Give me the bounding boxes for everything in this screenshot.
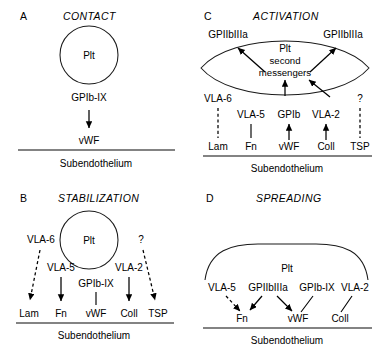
panel-a-ligand-label: vWF	[79, 135, 100, 146]
panel-b-platelet-label: Plt	[83, 235, 95, 246]
panel-b-ligand-tsp-label: TSP	[148, 308, 168, 319]
panel-c-ligand-fn-label: Fn	[245, 141, 257, 152]
figure-container: A CONTACT Plt GPIb-IX vWF Subendothelium…	[0, 0, 375, 352]
panel-d-arrow-gpiibiiia-to-vwf	[277, 296, 292, 311]
panel-c-receptor-unknown-label: ?	[357, 93, 363, 104]
panel-b-ligand-coll-label: Coll	[120, 308, 137, 319]
panel-b-receptor-vla2-label: VLA-2	[115, 262, 143, 273]
panel-c-ligand-lam-label: Lam	[208, 141, 227, 152]
panel-d: D SPREADING Plt VLA-5 GPIIbIIIa GPIb-IX …	[203, 192, 372, 346]
panel-b-arrow-vla6-to-lam	[30, 250, 40, 300]
panel-d-ligand-vwf-label: vWF	[288, 313, 309, 324]
panel-b-title: STABILIZATION	[58, 192, 139, 204]
panel-c-arrow-signal-to-left-integrin	[238, 48, 265, 72]
panel-c-ligand-coll-label: Coll	[317, 141, 334, 152]
panel-a-substrate-label: Subendothelium	[60, 158, 132, 169]
panel-b-arrow-unknown-to-tsp	[143, 250, 155, 300]
panel-a-letter: A	[20, 10, 27, 22]
panel-b-receptor-gpibix-label: GPIb-IX	[78, 278, 114, 289]
panel-c-receptor-vla6-label: VLA-6	[204, 93, 232, 104]
panel-d-ligand-fn-label: Fn	[236, 313, 248, 324]
panel-a-receptor-label: GPIb-IX	[71, 92, 107, 103]
panel-c-platelet-label: Plt	[279, 43, 291, 54]
panel-c-receptor-vla5-label: VLA-5	[237, 109, 265, 120]
panel-b-receptor-unknown-label: ?	[138, 234, 144, 245]
panel-d-ligand-coll-label: Coll	[331, 313, 348, 324]
panel-a-platelet-label: Plt	[83, 50, 95, 61]
panel-d-receptor-gpiibiiia-label: GPIIbIIIa	[248, 282, 288, 293]
panel-d-letter: D	[206, 192, 214, 204]
panel-c-substrate-label: Subendothelium	[251, 163, 323, 174]
panel-a-title: CONTACT	[63, 10, 117, 22]
panel-c-messengers-label: messengers	[259, 67, 311, 78]
panel-b: B STABILIZATION Plt VLA-6 VLA-5 GPIb-IX …	[16, 192, 174, 341]
panel-c-ligand-vwf-label: vWF	[279, 141, 300, 152]
panel-d-receptor-vla5-label: VLA-5	[208, 282, 236, 293]
panel-c-second-label: second	[270, 55, 301, 66]
panel-d-arrow-vla5-to-fn	[226, 296, 240, 311]
diagram-svg: A CONTACT Plt GPIb-IX vWF Subendothelium…	[0, 0, 375, 352]
panel-b-letter: B	[20, 192, 27, 204]
panel-b-ligand-vwf-label: vWF	[86, 308, 107, 319]
panel-c-ligand-tsp-label: TSP	[350, 141, 370, 152]
panel-b-receptor-vla6-label: VLA-6	[27, 234, 55, 245]
panel-b-substrate-label: Subendothelium	[58, 330, 130, 341]
panel-c-arrow-vla2-into-cell	[309, 80, 330, 97]
panel-d-platelet-shape	[205, 244, 368, 280]
panel-b-receptor-vla5-label: VLA-5	[47, 262, 75, 273]
panel-c-arrow-signal-to-right-integrin	[310, 48, 336, 72]
panel-c-receptor-vla2-label: VLA-2	[312, 109, 340, 120]
panel-c-integrin-left-label: GPIIbIIIa	[208, 29, 248, 40]
panel-d-receptor-vla2-label: VLA-2	[341, 282, 369, 293]
panel-c: C ACTIVATION GPIIbIIIa GPIIbIIIa Plt sec…	[201, 10, 372, 174]
panel-d-receptor-gpibix-label: GPIb-IX	[299, 282, 335, 293]
panel-a: A CONTACT Plt GPIb-IX vWF Subendothelium	[18, 10, 175, 169]
panel-c-title: ACTIVATION	[252, 10, 319, 22]
panel-d-title: SPREADING	[256, 192, 321, 204]
panel-d-link-gpibix-vwf	[301, 296, 313, 312]
panel-c-receptor-gpib-label: GPIb	[278, 109, 301, 120]
panel-c-letter: C	[204, 10, 212, 22]
panel-d-platelet-label: Plt	[281, 263, 293, 274]
panel-d-link-vla2-coll	[341, 296, 352, 312]
panel-c-integrin-right-label: GPIIbIIIa	[323, 29, 363, 40]
panel-b-ligand-fn-label: Fn	[55, 308, 67, 319]
panel-d-substrate-label: Subendothelium	[251, 335, 323, 346]
panel-b-ligand-lam-label: Lam	[19, 308, 38, 319]
panel-d-arrow-gpiibiiia-to-fn	[250, 296, 262, 310]
